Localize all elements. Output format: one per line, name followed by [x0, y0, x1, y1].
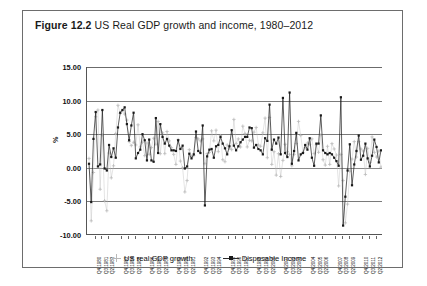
data-point — [282, 97, 284, 99]
data-point — [266, 156, 269, 159]
data-point — [137, 152, 139, 154]
data-point — [367, 157, 369, 159]
data-point — [108, 144, 110, 146]
data-point — [110, 156, 112, 158]
data-point — [115, 157, 117, 159]
data-point — [315, 143, 317, 145]
y-tick-3: 0.00 — [67, 163, 81, 172]
x-tick-mark-3 — [121, 236, 122, 239]
data-point — [157, 152, 159, 154]
data-point — [242, 138, 244, 140]
x-tick-mark-9 — [175, 236, 176, 239]
data-point — [179, 148, 181, 150]
data-point — [311, 157, 313, 159]
data-point — [145, 141, 148, 144]
data-point — [257, 148, 259, 150]
data-point — [139, 149, 141, 151]
data-point — [231, 129, 233, 131]
x-tick-mark-8 — [162, 236, 163, 239]
data-point — [344, 196, 346, 198]
data-point — [335, 160, 337, 162]
data-point — [110, 176, 113, 179]
data-point — [130, 124, 132, 126]
y-tick-0: 15.00 — [63, 63, 82, 72]
data-point — [174, 163, 177, 166]
legend-label-gdp: US real GDP growth — [124, 254, 193, 263]
data-point — [219, 136, 221, 138]
data-point — [243, 132, 246, 135]
data-point — [212, 139, 215, 142]
data-point — [164, 143, 166, 145]
data-point — [320, 114, 322, 116]
data-point — [304, 144, 306, 146]
data-point — [342, 224, 344, 226]
data-point — [378, 161, 380, 163]
data-point — [353, 163, 355, 165]
y-tick-5: -10.00 — [60, 231, 81, 240]
data-point — [206, 155, 208, 157]
data-point — [155, 117, 157, 119]
data-point — [105, 209, 108, 212]
data-point — [210, 129, 213, 132]
x-tick-mark-13 — [208, 236, 209, 239]
data-point — [346, 169, 348, 171]
data-point — [333, 157, 335, 159]
data-point — [286, 156, 288, 158]
data-point — [248, 126, 250, 128]
data-point — [121, 109, 123, 111]
data-point — [293, 150, 295, 152]
data-point — [244, 136, 246, 138]
series-line — [89, 105, 381, 223]
data-point — [349, 143, 351, 145]
x-tick-mark-14 — [215, 236, 216, 239]
data-point — [182, 145, 184, 147]
data-point — [340, 96, 342, 98]
data-point — [341, 179, 344, 182]
data-point — [146, 159, 148, 161]
data-point — [324, 163, 327, 166]
data-point — [358, 134, 360, 136]
data-point — [370, 135, 373, 138]
data-point — [172, 153, 175, 156]
data-point — [215, 145, 217, 147]
data-point — [346, 202, 349, 205]
data-point — [344, 221, 347, 224]
data-point — [271, 149, 273, 151]
data-point — [302, 152, 304, 154]
data-point — [264, 137, 266, 139]
data-point — [232, 118, 235, 121]
data-point — [275, 173, 278, 176]
data-point — [317, 151, 320, 154]
x-tick-mark-11 — [188, 236, 189, 239]
data-point — [141, 133, 143, 135]
data-point — [116, 104, 119, 107]
data-point — [235, 149, 237, 151]
data-point — [193, 153, 195, 155]
data-point — [281, 159, 284, 162]
x-tick-mark-0 — [95, 236, 96, 239]
data-point — [291, 163, 293, 165]
data-point — [163, 152, 166, 155]
data-point — [88, 163, 90, 165]
data-point — [153, 161, 155, 163]
data-point — [289, 91, 291, 93]
data-point — [330, 142, 333, 145]
data-point — [143, 154, 146, 157]
y-tick-2: 5.00 — [67, 130, 81, 139]
data-point — [90, 201, 92, 203]
data-point — [255, 144, 257, 146]
data-point — [351, 184, 353, 186]
data-point — [371, 155, 373, 157]
gdp-marker-icon — [112, 254, 121, 263]
data-point — [98, 188, 101, 191]
data-point — [170, 149, 172, 151]
data-point — [185, 179, 188, 182]
data-point — [280, 153, 282, 155]
data-point — [233, 145, 235, 147]
data-point — [309, 137, 311, 139]
legend-label-income: Disposable Income — [242, 254, 307, 263]
x-tick-mark-18 — [255, 236, 256, 239]
data-point — [114, 132, 117, 135]
data-point — [144, 139, 146, 141]
data-point — [297, 159, 299, 161]
